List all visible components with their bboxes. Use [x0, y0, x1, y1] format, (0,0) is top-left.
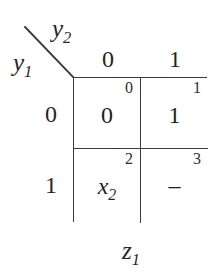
output-function-letter: z — [122, 237, 132, 264]
cell-index-0: 0 — [125, 80, 133, 96]
kmap-cell-1[interactable]: 1 1 — [141, 78, 208, 149]
row-header-0: 0 — [38, 102, 64, 126]
row-variable-label: y1 — [13, 50, 32, 81]
row-variable-letter: y — [13, 49, 24, 76]
cell-value-1: 1 — [141, 103, 208, 127]
row-header-1: 1 — [38, 173, 64, 197]
cell-value-2-letter: x — [98, 173, 109, 199]
column-variable-subscript: 2 — [63, 28, 71, 47]
column-variable-label: y2 — [52, 16, 71, 47]
cell-value-0: 0 — [74, 103, 140, 127]
cell-index-1: 1 — [193, 80, 201, 96]
karnaugh-map-figure: y2 y1 0 1 0 1 0 0 1 1 2 x2 3 – z1 — [0, 0, 222, 274]
cell-index-3: 3 — [193, 151, 201, 167]
kmap-cell-2[interactable]: 2 x2 — [74, 149, 141, 223]
kmap-cell-3[interactable]: 3 – — [141, 149, 208, 223]
kmap-cell-0[interactable]: 0 0 — [74, 78, 141, 149]
column-header-1: 1 — [162, 47, 188, 71]
row-variable-subscript: 1 — [24, 62, 32, 81]
karnaugh-map-grid: 0 0 1 1 2 x2 3 – — [73, 77, 207, 222]
cell-value-2-subscript: 2 — [108, 186, 116, 203]
cell-value-3: – — [141, 173, 208, 197]
column-variable-letter: y — [52, 15, 63, 42]
cell-index-2: 2 — [125, 151, 133, 167]
cell-value-2: x2 — [74, 174, 140, 203]
output-function-label: z1 — [122, 238, 140, 269]
output-function-subscript: 1 — [132, 250, 140, 269]
column-header-0: 0 — [95, 47, 121, 71]
